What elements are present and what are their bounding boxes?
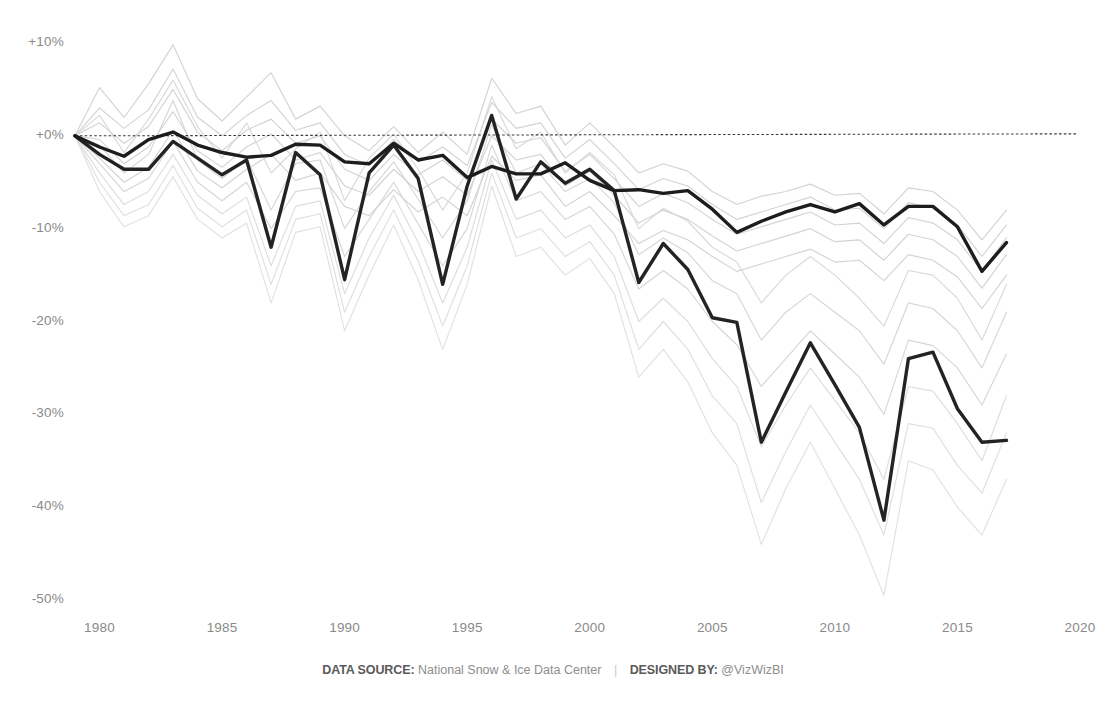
footer-designer-label: DESIGNED BY: <box>630 663 718 677</box>
footer-designer-value: @VizWizBI <box>721 663 783 677</box>
footer-separator: | <box>605 663 626 677</box>
series-line-highlight-lower <box>75 115 1006 520</box>
series-line-highlight-upper <box>75 132 1006 271</box>
series-line-region-9 <box>75 136 1006 479</box>
footer-source-label: DATA SOURCE: <box>322 663 414 677</box>
footer-source-value: National Snow & Ice Data Center <box>418 663 601 677</box>
highlight-series-group <box>75 115 1006 520</box>
chart-container: +10%+0%-10%-20%-30%-40%-50% 198019851990… <box>0 0 1106 709</box>
series-line-region-7 <box>75 136 1006 415</box>
series-line-region-6 <box>75 101 1006 368</box>
background-series-group <box>75 45 1006 596</box>
series-line-region-5 <box>75 130 1006 308</box>
footer-credits: DATA SOURCE: National Snow & Ice Data Ce… <box>0 663 1106 677</box>
series-line-region-3 <box>75 89 1006 271</box>
line-chart-plot <box>0 0 1106 709</box>
series-line-region-11 <box>75 136 1006 596</box>
